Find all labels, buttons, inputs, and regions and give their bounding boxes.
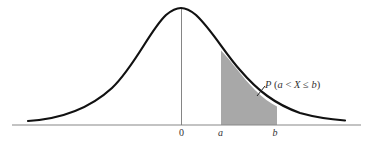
tick-label-b: b — [273, 127, 278, 138]
probability-annotation: P (a < X ≤ b) — [264, 79, 321, 91]
normal-distribution-figure: P (a < X ≤ b) 0 a b — [0, 0, 373, 143]
tick-label-zero: 0 — [179, 127, 184, 138]
tick-label-a: a — [218, 127, 223, 138]
normal-curve — [28, 8, 345, 121]
